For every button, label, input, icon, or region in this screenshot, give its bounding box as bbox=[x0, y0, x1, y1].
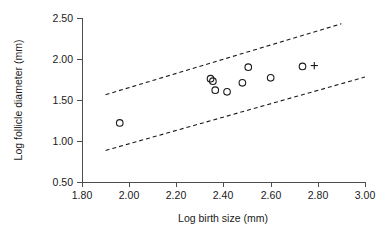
x-ticklabel-6: 3.00 bbox=[355, 189, 376, 201]
y-ticklabel-2: 1.50 bbox=[53, 94, 74, 106]
x-axis: 1.80 2.00 2.20 2.40 2.60 2.80 3.00 Log b… bbox=[72, 182, 376, 224]
chart-figure: 2.50 2.00 1.50 1.00 0.50 Log follicle di… bbox=[0, 0, 392, 235]
x-ticklabel-4: 2.60 bbox=[261, 189, 282, 201]
x-ticklabel-3: 2.40 bbox=[213, 189, 234, 201]
data-point-circle bbox=[224, 89, 231, 96]
y-ticklabel-3: 2.00 bbox=[53, 53, 74, 65]
y-ticklabel-1: 1.00 bbox=[53, 135, 74, 147]
scatter-plot-svg: 2.50 2.00 1.50 1.00 0.50 Log follicle di… bbox=[0, 0, 392, 235]
data-point-circle bbox=[267, 75, 274, 82]
upper-confidence-band bbox=[106, 24, 342, 95]
data-point-plus bbox=[311, 62, 318, 69]
data-point-circle bbox=[245, 64, 252, 71]
data-point-circle bbox=[212, 87, 219, 94]
y-axis-title: Log follicle diameter (mm) bbox=[12, 40, 24, 161]
y-ticklabel-0: 0.50 bbox=[53, 176, 74, 188]
x-axis-title: Log birth size (mm) bbox=[178, 212, 268, 224]
x-ticklabel-5: 2.80 bbox=[308, 189, 329, 201]
y-axis: 2.50 2.00 1.50 1.00 0.50 Log follicle di… bbox=[12, 12, 82, 188]
x-ticklabel-0: 1.80 bbox=[72, 189, 93, 201]
lower-confidence-band bbox=[106, 77, 365, 150]
confidence-bands bbox=[106, 24, 365, 151]
x-ticklabel-1: 2.00 bbox=[119, 189, 140, 201]
y-ticklabel-4: 2.50 bbox=[53, 12, 74, 24]
data-point-circle bbox=[299, 63, 306, 70]
data-points bbox=[116, 62, 317, 126]
data-point-circle bbox=[116, 120, 123, 127]
x-ticklabel-2: 2.20 bbox=[166, 189, 187, 201]
data-point-circle bbox=[239, 79, 246, 86]
